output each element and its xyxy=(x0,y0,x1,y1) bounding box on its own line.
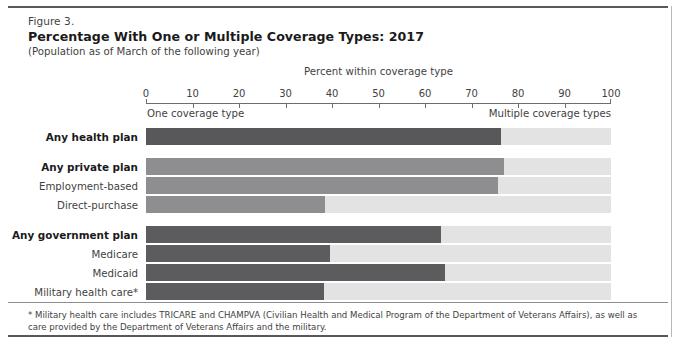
bar-row-label: Any government plan xyxy=(0,229,138,241)
bar-track-multiple-coverage xyxy=(146,283,611,300)
x-tick-label: 20 xyxy=(233,88,246,99)
annotation-one-coverage: One coverage type xyxy=(147,108,244,119)
bar-row: Medicare xyxy=(0,245,676,262)
bar-row-label: Employment-based xyxy=(0,180,138,191)
bar-segment-one-coverage xyxy=(146,283,324,300)
x-axis-title: Percent within coverage type xyxy=(146,66,611,77)
annotation-multiple-coverage: Multiple coverage types xyxy=(489,108,611,119)
x-tick-label: 60 xyxy=(419,88,432,99)
axis-endcap-left xyxy=(146,99,147,104)
bar-row-label: Medicare xyxy=(0,248,138,259)
page-title: Percentage With One or Multiple Coverage… xyxy=(28,28,424,45)
bar-row: Employment-based xyxy=(0,177,676,194)
bar-track-multiple-coverage xyxy=(146,177,611,194)
bar-track-multiple-coverage xyxy=(146,128,611,145)
bar-track-multiple-coverage xyxy=(146,226,611,243)
axis-endcap-right xyxy=(610,99,611,104)
x-tick-label: 70 xyxy=(465,88,478,99)
bar-segment-one-coverage xyxy=(146,264,445,281)
bar-segment-one-coverage xyxy=(146,196,325,213)
x-axis-line xyxy=(146,103,611,104)
bar-segment-one-coverage xyxy=(146,245,330,262)
x-axis-tick-labels: 0102030405060708090100 xyxy=(146,88,611,102)
bar-row: Any private plan xyxy=(0,158,676,175)
bar-track-multiple-coverage xyxy=(146,245,611,262)
figure-subtitle: (Population as of March of the following… xyxy=(28,45,424,59)
footnote: * Military health care includes TRICARE … xyxy=(28,310,650,333)
x-tick-label: 10 xyxy=(186,88,199,99)
bar-row-label: Medicaid xyxy=(0,267,138,278)
bar-row: Medicaid xyxy=(0,264,676,281)
bar-row: Direct-purchase xyxy=(0,196,676,213)
bar-track-multiple-coverage xyxy=(146,158,611,175)
bar-segment-one-coverage xyxy=(146,177,498,194)
x-tick-label: 80 xyxy=(512,88,525,99)
bar-row-label: Any private plan xyxy=(0,161,138,173)
bar-segment-one-coverage xyxy=(146,158,504,175)
x-tick-label: 100 xyxy=(601,88,620,99)
axis-annotations: One coverage type Multiple coverage type… xyxy=(146,108,611,123)
top-rule xyxy=(8,6,668,8)
bottom-rule xyxy=(8,335,668,337)
figure-number: Figure 3. xyxy=(28,14,424,28)
bar-rows: Any health planAny private planEmploymen… xyxy=(0,128,676,302)
x-tick-label: 90 xyxy=(558,88,571,99)
x-tick-label: 0 xyxy=(143,88,149,99)
bar-row-label: Direct-purchase xyxy=(0,199,138,210)
bar-row: Any health plan xyxy=(0,128,676,145)
bar-segment-one-coverage xyxy=(146,128,501,145)
figure-header: Figure 3. Percentage With One or Multipl… xyxy=(28,14,424,59)
plot-area: 0102030405060708090100 One coverage type… xyxy=(146,88,611,123)
footnote-rule xyxy=(8,302,668,303)
bar-row: Any government plan xyxy=(0,226,676,243)
bar-row-label: Military health care* xyxy=(0,286,138,297)
x-tick-label: 40 xyxy=(326,88,339,99)
x-tick-label: 50 xyxy=(372,88,385,99)
bar-row: Military health care* xyxy=(0,283,676,300)
bar-segment-one-coverage xyxy=(146,226,441,243)
bar-track-multiple-coverage xyxy=(146,264,611,281)
bar-track-multiple-coverage xyxy=(146,196,611,213)
x-tick-label: 30 xyxy=(279,88,292,99)
bar-row-label: Any health plan xyxy=(0,131,138,143)
figure-container: Figure 3. Percentage With One or Multipl… xyxy=(0,0,676,341)
